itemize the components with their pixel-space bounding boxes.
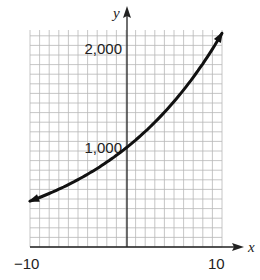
y-axis-label: y: [111, 5, 120, 21]
exponential-graph: x y −10 10 2,000 1,000: [0, 0, 260, 280]
x-max-tick-label: 10: [208, 255, 225, 272]
y-2000-tick-label: 2,000: [84, 40, 122, 57]
x-axis-label: x: [247, 239, 255, 255]
x-min-tick-label: −10: [14, 255, 39, 272]
grid: [30, 30, 222, 247]
y-1000-tick-label: 1,000: [84, 139, 122, 156]
